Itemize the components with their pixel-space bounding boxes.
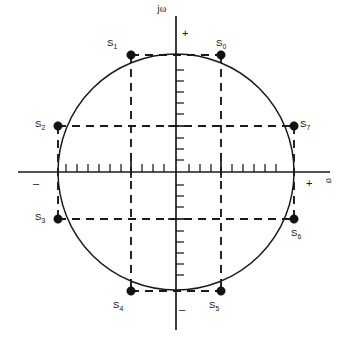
point-label-s0: S0 [216,38,226,51]
axis-label-sigma: σ [324,178,334,183]
horizontal-axis-ticks [66,160,276,178]
point-s5[interactable] [217,287,225,295]
point-s7[interactable] [290,122,298,130]
sign-positive-imaginary: + [182,28,188,39]
point-s0[interactable] [217,51,225,59]
point-s4[interactable] [127,287,135,295]
point-s1[interactable] [127,51,135,59]
point-label-s7: S7 [300,119,310,132]
point-s6[interactable] [290,215,298,223]
point-label-s6: S6 [291,228,301,241]
sign-negative-real: – [33,178,39,189]
constellation-figure: S0 S1 S2 S3 S4 S5 S6 S7 + – – + jω σ [0,0,343,341]
point-label-s1: S1 [107,38,117,51]
point-label-s3: S3 [35,212,45,225]
point-label-s5: S5 [209,300,219,313]
sign-positive-real: + [306,178,312,189]
point-label-s4: S4 [113,300,123,313]
sign-negative-imaginary: – [179,304,185,315]
point-s3[interactable] [54,215,62,223]
axis-label-jomega: jω [157,4,166,14]
point-s2[interactable] [54,122,62,130]
constellation-plot [0,0,343,341]
point-label-s2: S2 [35,119,45,132]
